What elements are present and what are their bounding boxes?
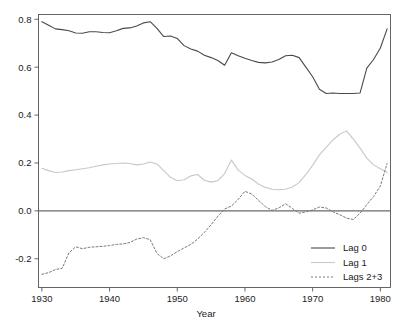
chart-legend: Lag 0Lag 1Lags 2+3 (311, 242, 382, 282)
plot-border (39, 15, 391, 288)
plot-frame (39, 15, 391, 288)
correlation-line-chart: -0.20.00.20.40.60.8 19301940195019601970… (0, 0, 413, 323)
y-tick-label: 0.8 (18, 14, 31, 25)
data-series-group (42, 22, 387, 275)
x-tick-label: 1930 (31, 293, 52, 304)
chart-figure: -0.20.00.20.40.60.8 19301940195019601970… (0, 0, 413, 323)
y-tick-label: 0.6 (18, 62, 31, 73)
y-tick-label: -0.2 (15, 253, 31, 264)
x-tick-label: 1980 (370, 293, 391, 304)
series-line-lag-0 (42, 22, 387, 94)
series-line-lag-1 (42, 131, 387, 190)
x-tick-label: 1970 (302, 293, 323, 304)
legend-label-lag-0: Lag 0 (343, 242, 367, 253)
x-tick-label: 1940 (99, 293, 120, 304)
x-tick-label: 1950 (167, 293, 188, 304)
y-tick-label: 0.4 (18, 109, 31, 120)
y-tick-label: 0.2 (18, 157, 31, 168)
legend-label-lags-2-3: Lags 2+3 (343, 271, 382, 282)
legend-label-lag-1: Lag 1 (343, 257, 367, 268)
series-line-lags-2-3 (42, 163, 387, 274)
x-axis-ticks: 193019401950196019701980 (31, 288, 391, 304)
x-axis-label: Year (196, 308, 215, 319)
y-axis-ticks: -0.20.00.20.40.60.8 (15, 14, 38, 264)
x-tick-label: 1960 (234, 293, 255, 304)
y-tick-label: 0.0 (18, 205, 31, 216)
